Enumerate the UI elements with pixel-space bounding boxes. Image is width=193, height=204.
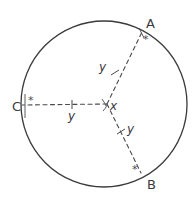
center-angle-arc-lower bbox=[103, 105, 107, 111]
circle-geometry-figure: A * B * C * x y y y bbox=[0, 0, 193, 204]
radius-line-to-c bbox=[22, 104, 107, 105]
point-star-c: * bbox=[28, 95, 34, 106]
radius-line-to-a bbox=[107, 32, 142, 104]
point-star-b: * bbox=[132, 164, 138, 175]
radius-label-y-b: y bbox=[127, 123, 134, 135]
center-angle-label-x: x bbox=[110, 100, 117, 112]
center-angle-arc-upper bbox=[102, 99, 106, 106]
point-label-c: C bbox=[12, 100, 21, 113]
radius-label-y-a: y bbox=[99, 61, 106, 73]
point-label-b: B bbox=[147, 178, 156, 191]
point-star-a: * bbox=[143, 34, 149, 45]
point-label-a: A bbox=[146, 17, 155, 30]
tick-mark-radius-a bbox=[111, 70, 119, 75]
radius-label-y-c: y bbox=[68, 110, 75, 122]
